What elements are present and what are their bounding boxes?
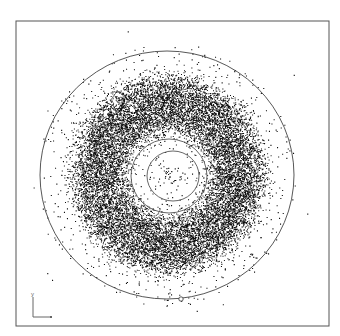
x-axis-tip-marker [50, 316, 52, 318]
point-markers [179, 297, 183, 301]
figure-background [0, 0, 340, 336]
scatter-figure: y [0, 0, 340, 336]
y-axis-label: y [31, 291, 34, 297]
open-circle-marker [179, 297, 183, 301]
